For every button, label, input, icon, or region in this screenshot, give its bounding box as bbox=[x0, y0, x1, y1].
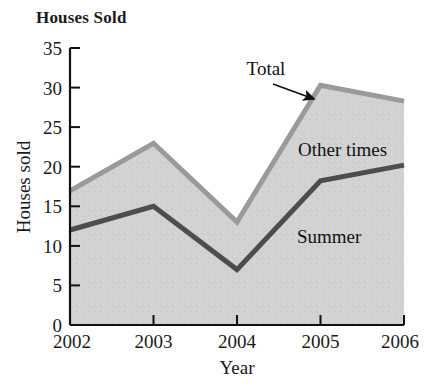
y-tick-label-15: 15 bbox=[43, 196, 62, 217]
x-tick-label-2005: 2005 bbox=[302, 331, 340, 352]
annotation-label-total: Total bbox=[247, 58, 286, 79]
x-tick-label-2002: 2002 bbox=[53, 331, 91, 352]
y-axis-title: Houses sold bbox=[13, 140, 34, 233]
x-tick-label-2006: 2006 bbox=[381, 331, 419, 352]
x-axis-title: Year bbox=[219, 357, 255, 378]
y-tick-label-20: 20 bbox=[43, 157, 62, 178]
band-label-other-times: Other times bbox=[298, 139, 387, 160]
annotation-arrow-total bbox=[273, 84, 314, 99]
x-tick-label-2003: 2003 bbox=[135, 331, 173, 352]
band-label-summer: Summer bbox=[297, 226, 362, 247]
x-tick-label-2004: 2004 bbox=[218, 331, 257, 352]
y-tick-label-30: 30 bbox=[43, 78, 62, 99]
y-tick-label-35: 35 bbox=[43, 38, 62, 59]
y-tick-label-25: 25 bbox=[43, 117, 62, 138]
y-tick-label-5: 5 bbox=[53, 275, 63, 296]
y-tick-label-10: 10 bbox=[43, 236, 62, 257]
area-fill-total bbox=[70, 85, 404, 325]
chart-plot: 35 30 25 20 15 10 5 0 2002 2003 2004 200… bbox=[0, 0, 429, 391]
chart-container: Houses Sold bbox=[0, 0, 429, 391]
